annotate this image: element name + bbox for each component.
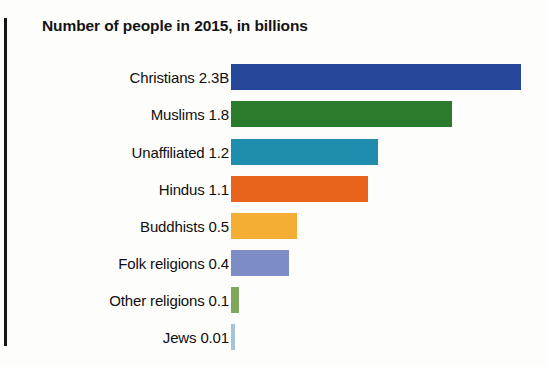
- bar-track: [231, 324, 235, 350]
- bar-track: [231, 213, 297, 239]
- bar-track: [231, 250, 289, 276]
- bar-row: Hindus 1.1: [0, 176, 547, 202]
- bar-track: [231, 139, 378, 165]
- bar-track: [231, 101, 452, 127]
- bar-fill: [231, 101, 452, 127]
- bar-row: Muslims 1.8: [0, 101, 547, 127]
- bar-row: Folk religions 0.4: [0, 250, 547, 276]
- bar-category-label: Hindus 1.1: [19, 181, 229, 198]
- bar-fill: [231, 64, 521, 90]
- bar-category-label: Jews 0.01: [19, 329, 229, 346]
- bar-category-label: Buddhists 0.5: [19, 218, 229, 235]
- bar-fill: [231, 324, 235, 350]
- bar-category-label: Christians 2.3B: [19, 69, 229, 86]
- chart-title: Number of people in 2015, in billions: [42, 17, 308, 35]
- bar-row: Jews 0.01: [0, 324, 547, 350]
- bar-fill: [231, 287, 239, 313]
- bar-track: [231, 64, 521, 90]
- bar-row: Other religions 0.1: [0, 287, 547, 313]
- bar-category-label: Folk religions 0.4: [19, 255, 229, 272]
- bar-category-label: Other religions 0.1: [19, 292, 229, 309]
- bar-row: Christians 2.3B: [0, 64, 547, 90]
- bar-category-label: Unaffiliated 1.2: [19, 144, 229, 161]
- bar-track: [231, 176, 368, 202]
- bar-fill: [231, 250, 289, 276]
- bar-chart-figure: Number of people in 2015, in billions Ch…: [0, 0, 547, 366]
- bar-fill: [231, 176, 368, 202]
- bar-row: Buddhists 0.5: [0, 213, 547, 239]
- bar-row: Unaffiliated 1.2: [0, 139, 547, 165]
- bar-category-label: Muslims 1.8: [19, 106, 229, 123]
- plot-area: Christians 2.3BMuslims 1.8Unaffiliated 1…: [0, 58, 547, 358]
- bar-fill: [231, 139, 378, 165]
- bar-fill: [231, 213, 297, 239]
- bar-track: [231, 287, 239, 313]
